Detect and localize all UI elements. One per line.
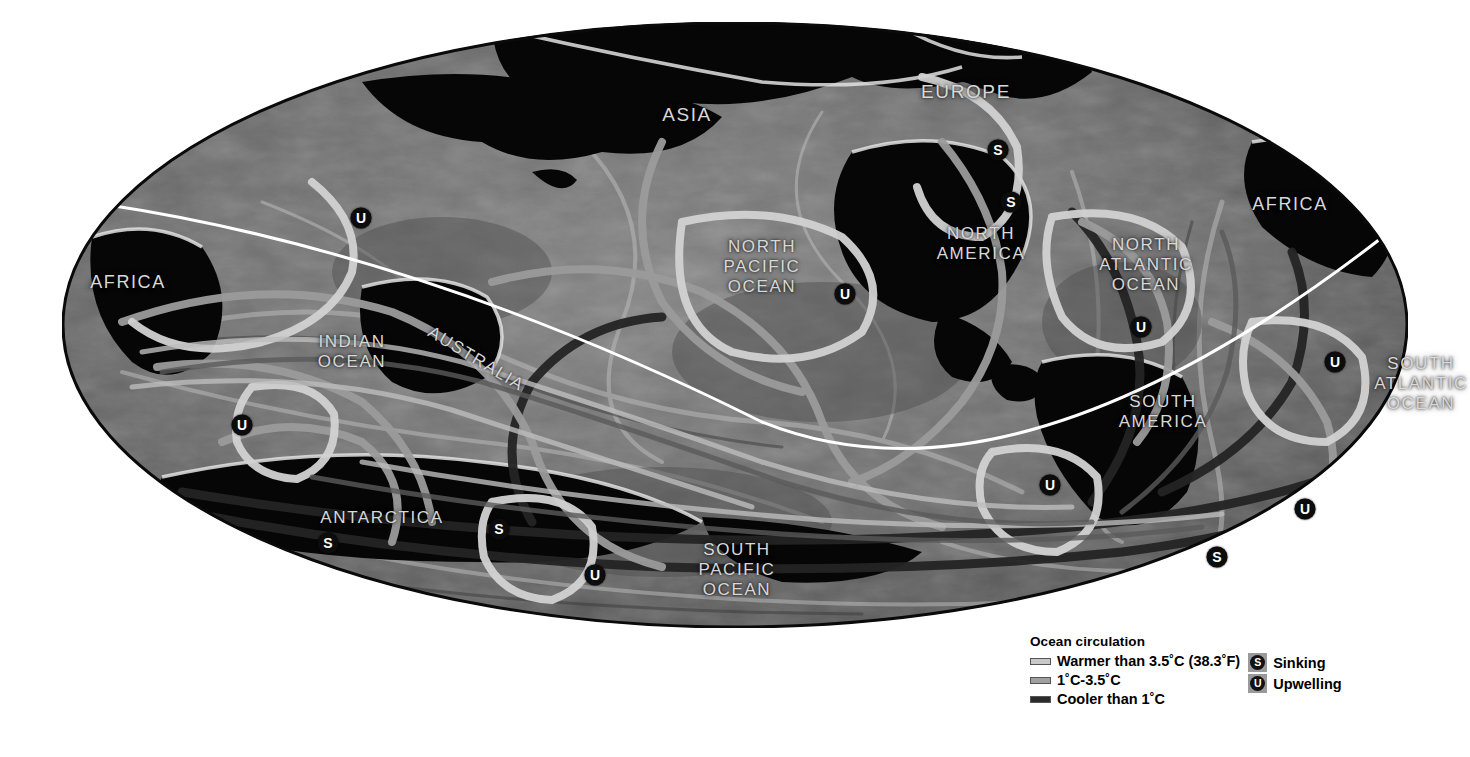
marker-sinking-southern-ocean: S [1207,547,1228,568]
legend-mid: 1˚C-3.5˚C [1030,672,1240,688]
legend-flow-list: Warmer than 3.5˚C (38.3˚F)1˚C-3.5˚CCoole… [1030,653,1240,707]
legend-mid-swatch [1030,677,1051,684]
world-map: ASIAEUROPEAFRICAAFRICANORTH AMERICASOUTH… [62,22,1408,628]
legend-sinking-icon: S [1248,653,1267,672]
ocean-circulation-map-page: ASIAEUROPEAFRICAAFRICANORTH AMERICASOUTH… [0,0,1470,757]
marker-upwelling-south-atlantic: U [1325,352,1346,373]
legend-sinking-label: Sinking [1273,655,1325,671]
legend-upwelling-icon: U [1248,674,1267,693]
legend-cooler-swatch [1030,696,1051,703]
legend-mid-label: 1˚C-3.5˚C [1057,672,1121,688]
legend-sinking-glyph: S [1250,655,1265,670]
legend-cooler-label: Cooler than 1˚C [1057,691,1165,707]
legend-upwelling: UUpwelling [1248,674,1341,693]
legend: Ocean circulation Warmer than 3.5˚C (38.… [1030,634,1342,707]
legend-warmer-label: Warmer than 3.5˚C (38.3˚F) [1057,653,1240,669]
legend-sinking: SSinking [1248,653,1341,672]
legend-upwelling-glyph: U [1250,676,1265,691]
marker-upwelling-indian-west: U [232,415,253,436]
marker-sinking-labrador: S [1001,192,1022,213]
marker-sinking-antarctica-west: S [318,533,339,554]
marker-sinking-norwegian: S [988,140,1009,161]
marker-upwelling-south-pacific-e: U [1040,475,1061,496]
legend-cooler: Cooler than 1˚C [1030,691,1240,707]
legend-marker-list: SSinkingUUpwelling [1248,653,1341,693]
marker-upwelling-north-pacific: U [835,284,856,305]
marker-sinking-antarctica-east: S [489,519,510,540]
marker-upwelling-north-atlantic: U [1131,317,1152,338]
legend-upwelling-label: Upwelling [1273,676,1341,692]
legend-warmer: Warmer than 3.5˚C (38.3˚F) [1030,653,1240,669]
marker-upwelling-southern-ocean: U [1295,499,1316,520]
marker-upwelling-indian-north: U [351,208,372,229]
legend-title: Ocean circulation [1030,634,1342,649]
map-canvas [62,22,1408,628]
legend-warmer-swatch [1030,658,1051,665]
marker-upwelling-south-pacific-w: U [585,565,606,586]
